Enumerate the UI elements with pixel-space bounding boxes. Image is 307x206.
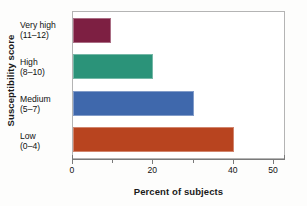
bar-slot — [73, 49, 284, 86]
x-axis-tick-label: 20 — [148, 165, 158, 175]
bar-slot — [73, 12, 284, 49]
y-axis-title: Susceptibility score — [2, 0, 20, 160]
bar-slot — [73, 85, 284, 122]
category-label: Very high(11–12) — [20, 11, 72, 48]
x-axis: 0204050 — [72, 159, 285, 189]
x-axis-tick — [72, 159, 73, 164]
x-axis-line — [72, 159, 285, 160]
category-label-name: Very high — [20, 20, 56, 30]
category-label-range: (5–7) — [20, 104, 40, 114]
category-label-range: (11–12) — [20, 30, 49, 40]
bar[interactable] — [73, 54, 153, 79]
category-label: Medium(5–7) — [20, 85, 72, 122]
bar[interactable] — [73, 127, 234, 152]
x-axis-endcap-right — [284, 155, 285, 159]
bar[interactable] — [73, 91, 194, 116]
bar[interactable] — [73, 18, 111, 43]
bars-layer — [73, 12, 284, 158]
category-label-name: High — [20, 57, 38, 67]
category-label: Low(0–4) — [20, 122, 72, 159]
bar-chart: Susceptibility score Very high(11–12)Hig… — [0, 0, 307, 206]
x-axis-tick-label: 50 — [268, 165, 278, 175]
category-axis-labels: Very high(11–12)High(8–10)Medium(5–7)Low… — [20, 11, 72, 159]
x-axis-tick — [152, 159, 153, 164]
category-label: High(8–10) — [20, 48, 72, 85]
x-axis-tick-label: 40 — [228, 165, 238, 175]
x-axis-tick — [112, 159, 113, 163]
x-axis-tick-label: 0 — [70, 165, 75, 175]
plot-area — [72, 11, 285, 159]
bar-slot — [73, 122, 284, 159]
category-label-name: Low — [20, 131, 36, 141]
x-axis-tick — [193, 159, 194, 163]
x-axis-tick — [273, 159, 274, 164]
x-axis-title: Percent of subjects — [72, 186, 285, 197]
category-label-range: (8–10) — [20, 67, 45, 77]
category-label-range: (0–4) — [20, 141, 40, 151]
x-axis-tick — [233, 159, 234, 164]
category-label-name: Medium — [20, 94, 51, 104]
y-axis-title-text: Susceptibility score — [6, 34, 17, 126]
